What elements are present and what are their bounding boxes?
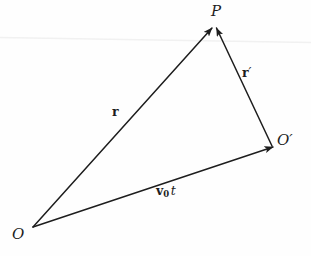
- point-label-O-prime-mark: ′: [289, 131, 292, 149]
- vector-label-r: r: [112, 106, 119, 119]
- vector-label-v0t: v0t: [156, 185, 176, 199]
- vector-r-prime-line: [217, 28, 273, 146]
- vector-label-r-prime-letter: r: [242, 65, 249, 80]
- point-label-O-prime-letter: O: [277, 131, 289, 149]
- vector-diagram-figure: P O′ O r r′ v0t: [0, 0, 311, 256]
- vector-diagram-canvas: [0, 0, 311, 256]
- vector-label-v0t-subscript: 0: [163, 189, 169, 199]
- scan-artifact-line: [0, 38, 311, 43]
- vector-label-r-prime-mark: ′: [249, 65, 252, 80]
- point-label-O: O: [12, 227, 24, 242]
- vector-label-v0t-time: t: [171, 183, 176, 198]
- point-label-O-prime: O′: [277, 133, 293, 148]
- vector-label-r-prime: r′: [242, 67, 251, 80]
- point-label-P: P: [211, 4, 221, 19]
